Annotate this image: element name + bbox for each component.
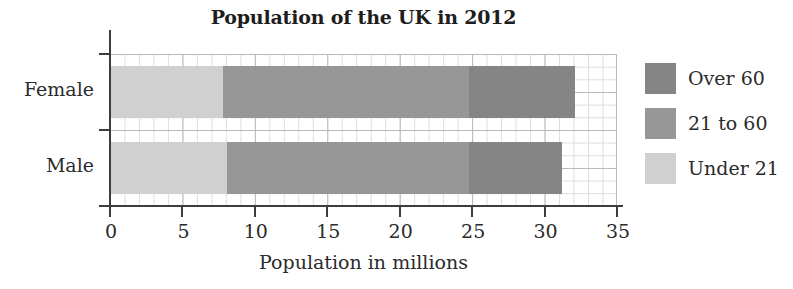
bar-segment — [223, 66, 469, 118]
x-axis-tick-label: 10 — [234, 220, 278, 242]
x-axis-tick-label: 25 — [451, 220, 495, 242]
y-axis-category-label: Male — [46, 154, 94, 176]
chart-title: Population of the UK in 2012 — [110, 6, 617, 28]
bar-segment — [469, 66, 575, 118]
legend-item: Over 60 — [645, 62, 765, 94]
x-axis-tick — [471, 207, 473, 217]
x-axis-tick-label: 20 — [379, 220, 423, 242]
x-axis-title: Population in millions — [110, 251, 617, 273]
legend-swatch — [645, 63, 676, 94]
x-axis-tick — [254, 207, 256, 217]
legend-swatch — [645, 153, 676, 184]
legend-label: Under 21 — [688, 157, 779, 179]
y-axis-line — [109, 30, 111, 208]
y-axis-tick — [99, 53, 111, 55]
legend-swatch — [645, 108, 676, 139]
bar-chart: Population of the UK in 2012 FemaleMale … — [0, 0, 793, 289]
x-axis-tick — [326, 207, 328, 217]
x-axis-tick-label: 35 — [596, 220, 640, 242]
bar-segment — [469, 142, 562, 194]
bar-segment — [110, 142, 227, 194]
legend-label: 21 to 60 — [688, 112, 768, 134]
x-axis-tick-label: 30 — [524, 220, 568, 242]
x-axis-tick — [181, 207, 183, 217]
x-axis-tick-label: 5 — [161, 220, 205, 242]
legend-label: Over 60 — [688, 67, 765, 89]
plot-right-border — [616, 54, 617, 206]
x-axis-tick — [109, 207, 111, 217]
x-axis-tick — [616, 207, 618, 217]
bar-segment — [227, 142, 469, 194]
legend-item: Under 21 — [645, 152, 779, 184]
x-axis-tick-label: 15 — [306, 220, 350, 242]
y-axis-tick — [99, 129, 111, 131]
y-axis-category-label: Female — [24, 78, 94, 100]
plot-area — [110, 54, 617, 206]
plot-top-border — [110, 54, 617, 55]
bar-segment — [110, 66, 223, 118]
x-axis-tick — [399, 207, 401, 217]
x-axis-tick — [544, 207, 546, 217]
x-axis-tick-label: 0 — [89, 220, 133, 242]
legend-item: 21 to 60 — [645, 107, 768, 139]
